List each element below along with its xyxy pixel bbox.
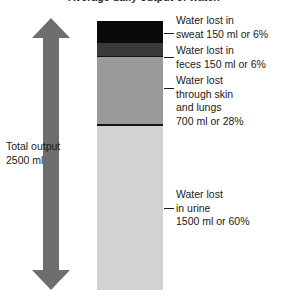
stacked-bar <box>97 21 163 290</box>
callout-sweat: Water lost in sweat 150 ml or 6% <box>176 14 268 41</box>
total-output-value: 2500 ml <box>6 154 92 168</box>
leader-line-feces <box>164 57 174 58</box>
callout-urine: Water lost in urine 1500 ml or 60% <box>176 188 250 229</box>
total-output-caption: Total output 2500 ml <box>6 140 92 167</box>
leader-line-skin-and-lungs <box>164 88 174 89</box>
leader-line-urine <box>164 208 174 209</box>
bar-segment-urine <box>97 126 163 290</box>
bar-segment-sweat <box>97 21 163 43</box>
bar-segment-skin-and-lungs <box>97 56 163 126</box>
water-output-figure: Average daily output of water. Total out… <box>0 0 288 302</box>
leader-line-sweat <box>164 33 174 34</box>
bar-segment-feces <box>97 43 163 56</box>
figure-title: Average daily output of water. <box>0 0 288 3</box>
callout-feces: Water lost in feces 150 ml or 6% <box>176 44 266 71</box>
callout-skin-and-lungs: Water lost through skin and lungs 700 ml… <box>176 74 244 128</box>
total-output-label: Total output <box>6 140 92 154</box>
